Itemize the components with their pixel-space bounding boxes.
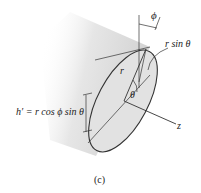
figure-caption: (c) — [94, 175, 105, 185]
theta-label: θ — [130, 90, 135, 100]
cylinder-diagram: ϕ r sin θ r θ h′ = r cos ϕ sin θ z (c) — [0, 0, 201, 193]
phi-label: ϕ — [151, 10, 157, 21]
h-prime-label: h′ = r cos ϕ sin θ — [16, 107, 84, 117]
cylinder-figure — [0, 0, 201, 193]
r-sin-theta-label: r sin θ — [165, 39, 190, 49]
z-axis-label: z — [177, 121, 181, 131]
phi-arc — [139, 24, 157, 28]
r-label: r — [120, 66, 124, 76]
